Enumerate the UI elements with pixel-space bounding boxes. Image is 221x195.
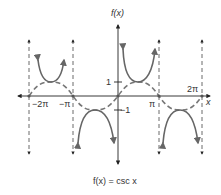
csc-branch-4 [163, 110, 198, 143]
tick-label-negpi: −π [59, 99, 70, 109]
asymptotes [29, 40, 202, 154]
tick-label-neg2pi: −2π [32, 99, 48, 109]
chart-caption: f(x) = csc x [93, 176, 137, 186]
csc-branch-2 [78, 110, 114, 143]
tick-label-2pi: 2π [187, 84, 198, 94]
csc-branch-3 [123, 49, 155, 82]
tick-label-pi: π [149, 99, 155, 109]
tick-label-neg1: −1 [120, 105, 130, 115]
csc-graph: f(x) x 1 −1 −2π −π π 2π f(x) = csc x [0, 0, 221, 195]
y-axis-label: f(x) [111, 8, 124, 18]
x-axis-label: x [205, 97, 211, 107]
axes [18, 25, 210, 164]
csc-branch-1 [38, 60, 64, 82]
tick-label-1: 1 [106, 77, 111, 87]
